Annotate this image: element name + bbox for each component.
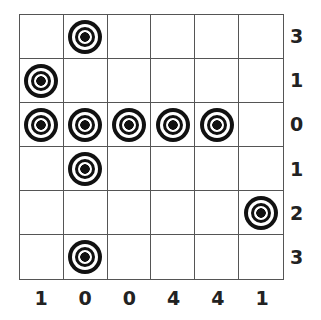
grid-cell-r3-c3[interactable] [151,147,195,191]
grid-cell-r5-c5[interactable] [239,235,283,279]
grid-cell-r2-c5[interactable] [239,103,283,147]
grid-cell-r5-c3[interactable] [151,235,195,279]
grid-cell-r1-c4[interactable] [195,59,239,103]
bullseye-target-icon [68,108,102,142]
grid-cell-r2-c1[interactable] [64,103,108,147]
column-clue: 4 [196,284,240,312]
bullseye-target-icon [68,152,102,186]
grid-cell-r1-c1[interactable] [64,59,108,103]
grid-cell-r0-c3[interactable] [151,15,195,59]
grid-cell-r4-c4[interactable] [195,191,239,235]
row-clue: 0 [290,102,310,146]
grid-cell-r5-c1[interactable] [64,235,108,279]
grid-cell-r0-c2[interactable] [108,15,152,59]
row-clue: 2 [290,191,310,235]
bullseye-target-icon [24,108,58,142]
puzzle-grid [19,14,284,280]
grid-cell-r0-c4[interactable] [195,15,239,59]
grid-cell-r4-c3[interactable] [151,191,195,235]
grid-cell-r5-c4[interactable] [195,235,239,279]
grid-cell-r3-c5[interactable] [239,147,283,191]
bullseye-target-icon [244,196,278,230]
column-clue: 4 [152,284,196,312]
grid-cell-r2-c0[interactable] [20,103,64,147]
bullseye-target-icon [24,64,58,98]
bullseye-target-icon [112,108,146,142]
grid-cell-r4-c1[interactable] [64,191,108,235]
column-clue: 1 [19,284,63,312]
grid-cell-r5-c0[interactable] [20,235,64,279]
grid-cell-r4-c5[interactable] [239,191,283,235]
grid-cell-r1-c2[interactable] [108,59,152,103]
column-clue: 0 [63,284,107,312]
bullseye-target-icon [68,240,102,274]
row-clue: 3 [290,235,310,279]
column-clue: 1 [240,284,284,312]
grid-cell-r0-c0[interactable] [20,15,64,59]
bullseye-target-icon [68,20,102,54]
grid-cell-r4-c0[interactable] [20,191,64,235]
grid-cell-r2-c3[interactable] [151,103,195,147]
grid-cell-r1-c0[interactable] [20,59,64,103]
grid-cell-r1-c3[interactable] [151,59,195,103]
grid-cell-r4-c2[interactable] [108,191,152,235]
grid-cell-r2-c2[interactable] [108,103,152,147]
grid-cell-r3-c4[interactable] [195,147,239,191]
row-clue: 1 [290,147,310,191]
grid-cell-r3-c2[interactable] [108,147,152,191]
bullseye-target-icon [200,108,234,142]
bullseye-target-icon [156,108,190,142]
grid-cell-r3-c1[interactable] [64,147,108,191]
row-clue: 1 [290,58,310,102]
grid-cell-r5-c2[interactable] [108,235,152,279]
grid-cell-r0-c5[interactable] [239,15,283,59]
grid-cell-r2-c4[interactable] [195,103,239,147]
grid-cell-r1-c5[interactable] [239,59,283,103]
row-clue: 3 [290,14,310,58]
grid-cell-r0-c1[interactable] [64,15,108,59]
column-clue: 0 [107,284,151,312]
grid-cell-r3-c0[interactable] [20,147,64,191]
